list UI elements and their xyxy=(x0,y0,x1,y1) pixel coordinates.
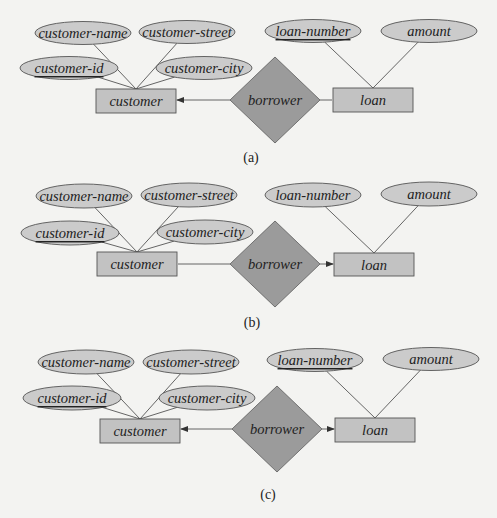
entity-label: loan xyxy=(362,422,388,438)
attribute-label: customer-name xyxy=(38,25,128,41)
attribute-label: customer-city xyxy=(168,390,247,406)
attribute-link xyxy=(327,371,375,418)
attribute-customer-street: customer-street xyxy=(143,350,239,374)
entity-label: customer xyxy=(113,423,167,439)
entity-label: loan xyxy=(360,92,386,108)
attribute-customer-id: customer-id xyxy=(20,57,118,80)
entity-label: customer xyxy=(109,93,163,109)
attribute-loan-number: loan-number xyxy=(267,349,363,372)
attribute-link xyxy=(325,207,374,253)
panel-caption: (b) xyxy=(244,315,261,331)
attribute-label: customer-city xyxy=(165,60,244,76)
attribute-customer-id: customer-id xyxy=(21,221,119,245)
panel-caption: (a) xyxy=(243,150,259,166)
attribute-link xyxy=(374,206,418,253)
attribute-label: customer-street xyxy=(144,187,234,203)
entity-customer: customer xyxy=(100,419,180,443)
attribute-label: amount xyxy=(407,186,451,202)
attribute-loan-number: loan-number xyxy=(265,20,361,43)
attribute-label: customer-name xyxy=(41,354,131,370)
entity-loan: loan xyxy=(334,253,414,276)
attribute-label: customer-street xyxy=(146,354,236,370)
attribute-label: customer-name xyxy=(39,188,129,204)
attribute-label: customer-city xyxy=(166,224,245,240)
attribute-amount: amount xyxy=(383,348,479,371)
attribute-link xyxy=(375,370,420,418)
attribute-amount: amount xyxy=(381,182,477,206)
primary-key-label: loan-number xyxy=(278,352,353,368)
attribute-customer-city: customer-city xyxy=(156,57,252,80)
entity-loan: loan xyxy=(335,418,415,442)
attribute-customer-city: customer-city xyxy=(157,220,253,244)
entity-customer: customer xyxy=(97,252,177,276)
attribute-label: customer-street xyxy=(142,24,232,40)
entity-label: loan xyxy=(361,257,387,273)
attribute-label: loan-number xyxy=(276,187,351,203)
relationship-label: borrower xyxy=(250,421,305,437)
er-diagram-figure: customer-namecustomer-streetcustomer-idc… xyxy=(0,0,497,518)
panel-caption: (c) xyxy=(260,487,276,503)
attribute-customer-name: customer-name xyxy=(38,350,134,374)
attribute-loan-number: loan-number xyxy=(265,183,361,207)
attribute-customer-name: customer-name xyxy=(35,22,131,45)
relationship-label: borrower xyxy=(248,256,303,272)
entity-customer: customer xyxy=(96,89,176,113)
attribute-customer-street: customer-street xyxy=(141,183,237,207)
attribute-label: amount xyxy=(409,351,453,367)
relationship-label: borrower xyxy=(248,92,303,108)
attribute-customer-street: customer-street xyxy=(139,21,235,44)
panel-a: customer-namecustomer-streetcustomer-idc… xyxy=(20,20,477,166)
entity-label: customer xyxy=(110,256,164,272)
primary-key-label: loan-number xyxy=(276,23,351,39)
attribute-label: amount xyxy=(407,23,451,39)
primary-key-label: customer-id xyxy=(35,60,105,76)
panel-b: customer-namecustomer-streetcustomer-idc… xyxy=(21,182,477,331)
attribute-link xyxy=(325,42,373,88)
attribute-customer-id: customer-id xyxy=(23,386,121,410)
attribute-amount: amount xyxy=(381,20,477,43)
attribute-customer-city: customer-city xyxy=(159,386,255,410)
panel-c: customer-namecustomer-streetcustomer-idc… xyxy=(23,348,479,503)
attribute-customer-name: customer-name xyxy=(36,184,132,208)
primary-key-label: customer-id xyxy=(38,390,108,406)
entity-loan: loan xyxy=(333,88,413,112)
attribute-link xyxy=(373,42,418,88)
primary-key-label: customer-id xyxy=(36,225,106,241)
